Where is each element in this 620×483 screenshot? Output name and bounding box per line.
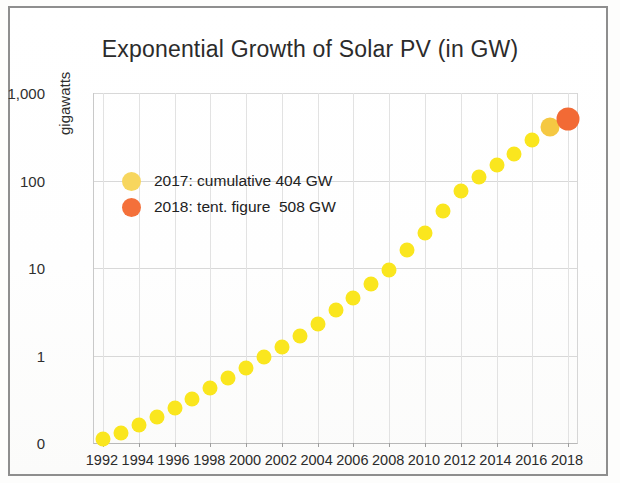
frame-border-top — [8, 6, 608, 8]
legend-swatch-2017-icon — [122, 172, 141, 191]
x-axis-tick-mark — [282, 443, 283, 447]
data-point — [489, 158, 504, 173]
data-point — [292, 329, 307, 344]
legend-swatch-2018-icon — [122, 198, 141, 217]
x-axis-tick-mark — [353, 443, 354, 447]
x-axis-tick-mark — [246, 443, 247, 447]
gridline-vertical — [353, 93, 354, 443]
figure-frame: Exponential Growth of Solar PV (in GW) g… — [0, 0, 620, 483]
x-axis-tick-label: 1996 — [157, 452, 189, 468]
x-axis-tick-label: 2000 — [229, 452, 261, 468]
data-point — [507, 147, 522, 162]
x-axis-tick-label: 2018 — [551, 452, 583, 468]
frame-border-right — [606, 6, 608, 476]
x-axis-tick-mark — [175, 443, 176, 447]
x-axis-tick-mark — [210, 443, 211, 447]
x-axis-tick-labels: 1992199419961998200020022004200620082010… — [93, 452, 578, 472]
data-point — [310, 316, 325, 331]
x-axis-tick-label: 2008 — [372, 452, 404, 468]
data-point — [185, 391, 200, 406]
gridline-vertical — [139, 93, 140, 443]
gridline-vertical — [568, 93, 569, 443]
legend-label-2018: 2018: tent. figure 508 GW — [154, 198, 336, 216]
data-point — [453, 184, 468, 199]
gridline-vertical — [282, 93, 283, 443]
gridline-horizontal — [94, 443, 577, 444]
data-point — [471, 169, 486, 184]
chart-legend: 2017: cumulative 404 GW 2018: tent. figu… — [122, 168, 392, 220]
x-axis-tick-mark — [425, 443, 426, 447]
x-axis-tick-label: 1992 — [86, 452, 118, 468]
data-point — [364, 276, 379, 291]
x-axis-tick-label: 2012 — [444, 452, 476, 468]
gridline-horizontal — [94, 356, 577, 357]
x-axis-tick-mark — [497, 443, 498, 447]
y-axis-tick-label: 100 — [0, 172, 45, 189]
x-axis-tick-label: 2002 — [265, 452, 297, 468]
x-axis-tick-mark — [318, 443, 319, 447]
data-point — [149, 409, 164, 424]
gridline-vertical — [318, 93, 319, 443]
gridline-vertical — [175, 93, 176, 443]
chart-title: Exponential Growth of Solar PV (in GW) — [0, 36, 620, 63]
y-axis-tick-label: 1 — [0, 347, 45, 364]
x-axis-tick-mark — [532, 443, 533, 447]
gridline-vertical — [425, 93, 426, 443]
gridline-horizontal — [94, 93, 577, 94]
data-point — [95, 432, 110, 447]
data-point — [203, 381, 218, 396]
x-axis-tick-label: 2006 — [336, 452, 368, 468]
data-point — [346, 290, 361, 305]
legend-label-2017: 2017: cumulative 404 GW — [154, 172, 332, 190]
data-point — [239, 360, 254, 375]
gridline-horizontal — [94, 268, 577, 269]
legend-item-2017: 2017: cumulative 404 GW — [122, 168, 392, 194]
data-point — [113, 426, 128, 441]
y-axis-tick-label: 10 — [0, 260, 45, 277]
gridline-vertical — [103, 93, 104, 443]
data-point — [435, 203, 450, 218]
gridline-vertical — [246, 93, 247, 443]
data-point — [274, 340, 289, 355]
data-point — [400, 243, 415, 258]
plot-area: gigawatts 1,0001001010 — [93, 93, 578, 444]
data-point — [167, 401, 182, 416]
x-axis-tick-label: 1994 — [122, 452, 154, 468]
y-axis-title: gigawatts — [56, 72, 73, 135]
y-axis-tick-label: 1,000 — [0, 85, 45, 102]
x-axis-tick-label: 2010 — [408, 452, 440, 468]
x-axis-tick-mark — [389, 443, 390, 447]
x-axis-tick-mark — [568, 443, 569, 447]
legend-item-2018: 2018: tent. figure 508 GW — [122, 194, 392, 220]
x-axis-tick-label: 2014 — [479, 452, 511, 468]
frame-border-bottom — [8, 474, 608, 476]
data-point — [256, 350, 271, 365]
x-axis-tick-label: 2004 — [300, 452, 332, 468]
data-point — [525, 133, 540, 148]
x-axis-tick-mark — [461, 443, 462, 447]
data-point — [417, 226, 432, 241]
data-point — [328, 303, 343, 318]
data-point — [131, 418, 146, 433]
data-point — [557, 107, 580, 130]
x-axis-tick-label: 2016 — [515, 452, 547, 468]
y-axis-tick-label: 0 — [0, 435, 45, 452]
data-point — [382, 262, 397, 277]
gridline-vertical — [497, 93, 498, 443]
x-axis-tick-mark — [139, 443, 140, 447]
gridline-vertical — [461, 93, 462, 443]
x-axis-tick-label: 1998 — [193, 452, 225, 468]
frame-border-left — [8, 6, 10, 476]
data-point — [221, 371, 236, 386]
